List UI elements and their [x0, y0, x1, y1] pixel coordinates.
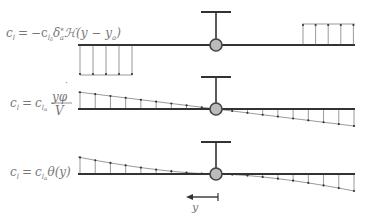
- arrow-head: [79, 156, 81, 158]
- roll-moment-diagram: cl=−clδδ*aℋ(y − ya) cl=clα yφ ˙ V cl=clα…: [0, 0, 366, 219]
- panel-aileron: cl=−clδδ*aℋ(y − ya): [6, 12, 355, 75]
- panel-roll-rate: cl=clα yφ ˙ V: [10, 77, 355, 127]
- arrow-head: [125, 164, 127, 166]
- fuselage-pivot: [210, 168, 222, 180]
- arrow-head: [292, 180, 294, 182]
- axis-label: y: [191, 201, 199, 214]
- arrow-head: [170, 170, 172, 172]
- arrow-head: [353, 190, 355, 192]
- arrow-head: [338, 187, 340, 189]
- arrow-head: [140, 99, 142, 101]
- arrow-head: [322, 184, 324, 186]
- formula-twist: cl=clαθ(y): [10, 165, 71, 181]
- arrow-head: [140, 166, 142, 168]
- arrow-head: [322, 121, 324, 123]
- arrow-head: [277, 178, 279, 180]
- y-axis-indicator: y: [186, 193, 218, 214]
- arrow-head: [155, 168, 157, 170]
- arrow-head: [307, 182, 309, 184]
- panel-twist: cl=clαθ(y): [10, 142, 355, 192]
- arrow-head: [125, 97, 127, 99]
- formula-roll-rate: cl=clα: [10, 96, 48, 112]
- arrow-head: [338, 123, 340, 125]
- arrow-head: [155, 101, 157, 103]
- arrow-head: [262, 176, 264, 178]
- arrow-head: [170, 102, 172, 104]
- arrow-head: [307, 119, 309, 121]
- arrow-head: [231, 110, 233, 112]
- arrow-head: [79, 91, 81, 93]
- fuselage-pivot: [210, 103, 222, 115]
- formula-dot: ˙: [63, 80, 68, 91]
- arrow-head: [292, 117, 294, 119]
- formula-numerator: yφ: [51, 90, 68, 104]
- arrow-head: [94, 93, 96, 95]
- formula-denominator: V: [55, 104, 65, 118]
- arrow-head: [94, 159, 96, 161]
- arrow-head: [109, 162, 111, 164]
- arrow-left-icon: [186, 194, 193, 200]
- arrow-head: [277, 116, 279, 118]
- arrow-head: [353, 125, 355, 127]
- fuselage-pivot: [210, 39, 222, 51]
- formula-aileron: cl=−clδδ*aℋ(y − ya): [6, 26, 121, 42]
- arrow-head: [185, 104, 187, 106]
- arrow-head: [262, 114, 264, 116]
- arrow-head: [109, 95, 111, 97]
- arrow-head: [246, 112, 248, 114]
